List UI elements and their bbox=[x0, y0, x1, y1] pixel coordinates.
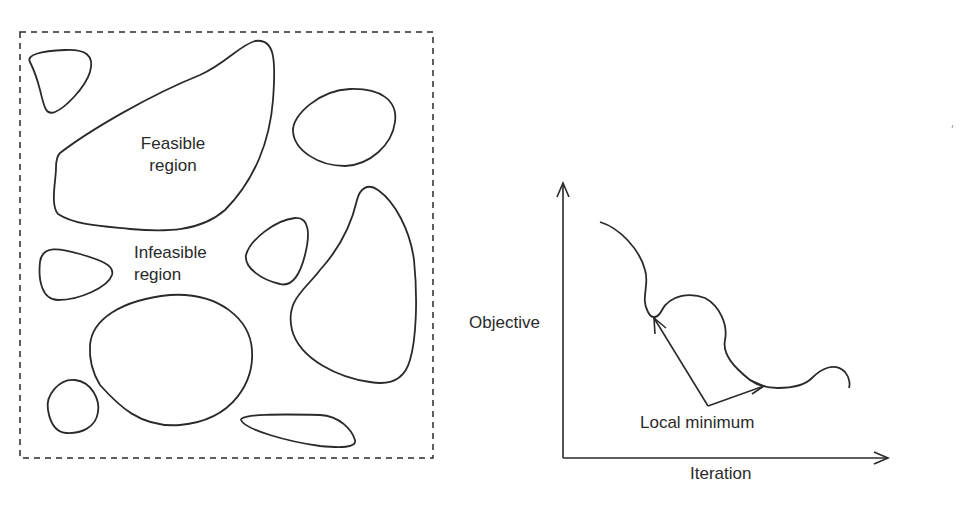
x-axis-label: Iteration bbox=[690, 463, 751, 485]
feasible-region-tall-right bbox=[291, 187, 417, 383]
pointer-arrowhead-first-minimum bbox=[654, 318, 666, 334]
pointer-line-to-second-minimum bbox=[708, 386, 764, 406]
infeasible-label-line2: region bbox=[134, 264, 207, 286]
design-space-border bbox=[20, 32, 433, 458]
objective-curve bbox=[600, 222, 850, 388]
feasible-label-line1: Feasible bbox=[133, 133, 213, 155]
local-minimum-label: Local minimum bbox=[640, 412, 754, 434]
infeasible-region-label: Infeasible region bbox=[134, 242, 207, 286]
y-axis-label: Objective bbox=[469, 312, 540, 334]
pointer-line-to-first-minimum bbox=[654, 318, 708, 406]
feasible-label-line2: region bbox=[133, 155, 213, 177]
feasible-region-small-center bbox=[246, 218, 308, 284]
feasible-region-blob-center bbox=[90, 295, 252, 425]
feasible-region-circle-bottomleft bbox=[48, 380, 99, 433]
feasible-region-flat-bottom bbox=[241, 415, 355, 448]
feasible-region-label: Feasible region bbox=[133, 133, 213, 177]
feasible-region-teardrop-left bbox=[40, 249, 113, 300]
feasible-region-small-topleft bbox=[29, 50, 91, 113]
artifact-mark bbox=[952, 125, 953, 128]
infeasible-label-line1: Infeasible bbox=[134, 242, 207, 264]
feasible-region-oval-topright bbox=[293, 89, 395, 166]
